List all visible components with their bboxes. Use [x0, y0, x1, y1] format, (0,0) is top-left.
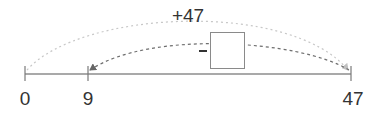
- tick-label-9: 9: [83, 89, 94, 108]
- minus-sign: [199, 50, 207, 52]
- tick-label-47: 47: [342, 89, 363, 108]
- tick-label-0: 0: [20, 89, 31, 108]
- forward-arc-label: +47: [172, 6, 204, 25]
- forward-arc: [27, 21, 348, 70]
- answer-box[interactable]: [210, 32, 245, 69]
